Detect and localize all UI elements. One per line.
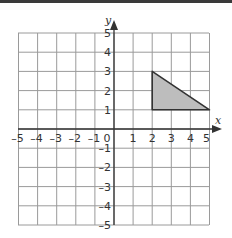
y-tick-label: –3: [99, 181, 112, 194]
y-tick-label: 5: [104, 27, 111, 40]
y-tick-label: 4: [104, 46, 111, 59]
x-tick-label: 2: [149, 132, 156, 145]
x-tick-label: 1: [130, 132, 137, 145]
x-tick-label: –5: [11, 132, 24, 145]
y-tick-label: –5: [99, 219, 112, 232]
y-tick-label: –4: [99, 200, 112, 213]
y-axis-label: y: [104, 14, 112, 27]
y-tick-label: 1: [104, 104, 111, 117]
y-tick-label: –2: [99, 161, 112, 174]
x-tick-label: 5: [203, 132, 210, 145]
x-tick-label: –2: [69, 132, 82, 145]
y-tick-label: 3: [104, 65, 111, 78]
x-tick-label: –4: [30, 132, 43, 145]
x-axis-label: x: [215, 114, 222, 127]
axes: [18, 20, 222, 225]
y-tick-label: –1: [99, 142, 112, 155]
y-tick-label: 2: [104, 85, 111, 98]
coordinate-plane: –5–4–3–2–101234512345–1–2–3–4–5 x y: [0, 0, 232, 238]
x-tick-label: –3: [49, 132, 62, 145]
x-tick-label: 4: [187, 132, 194, 145]
x-tick-label: 3: [168, 132, 175, 145]
